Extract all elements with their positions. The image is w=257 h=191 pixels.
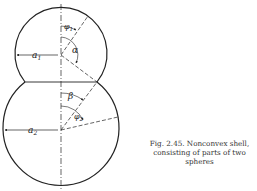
label-a1: a1 — [32, 50, 41, 61]
label-phi2: φ2 — [74, 112, 84, 122]
label-beta: β — [67, 91, 73, 101]
caption-line-3: spheres — [142, 158, 257, 167]
figure-caption: Fig. 2.45. Nonconvex shell, consisting o… — [142, 140, 257, 166]
label-a2: a2 — [28, 125, 37, 136]
label-alpha: α — [72, 45, 78, 55]
label-phi1: φ1 — [64, 22, 73, 32]
upper-radius-junction — [61, 55, 97, 82]
